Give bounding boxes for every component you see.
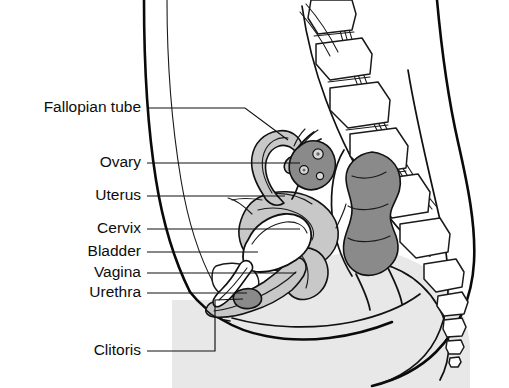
ovarian-follicle-nucleus-2 (303, 169, 306, 172)
coccyx-c1 (437, 292, 468, 316)
ovarian-follicle-3 (316, 172, 323, 179)
vertebra-l2 (316, 38, 372, 80)
label-bladder: Bladder (88, 242, 141, 259)
clitoris-group (233, 289, 261, 309)
anatomy-diagram-svg: Fallopian tube Ovary Uterus Cervix Bladd… (0, 0, 509, 388)
vertebra-l1 (308, 0, 356, 34)
label-clitoris: Clitoris (94, 341, 142, 358)
label-vagina: Vagina (94, 263, 141, 280)
label-urethra: Urethra (89, 283, 141, 300)
label-uterus: Uterus (95, 186, 141, 203)
label-cervix: Cervix (97, 219, 141, 236)
coccyx-c3 (446, 340, 464, 354)
clitoris (233, 289, 261, 309)
label-fallopian-tube: Fallopian tube (44, 98, 141, 115)
coccyx-c2 (443, 318, 466, 337)
coccyx-c4 (449, 357, 461, 367)
ovarian-follicle-nucleus-1 (316, 152, 319, 155)
label-ovary: Ovary (100, 153, 142, 170)
anatomy-figure: Fallopian tube Ovary Uterus Cervix Bladd… (0, 0, 509, 388)
